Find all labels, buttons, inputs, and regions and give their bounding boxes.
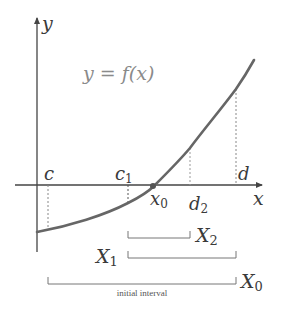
label-d2: d2 <box>189 193 208 216</box>
function-equation: y = f(x) <box>82 62 154 84</box>
label-c1: c1 <box>115 163 133 186</box>
label-X0: X0 <box>239 270 263 294</box>
label-x0: x0 <box>150 188 168 211</box>
label-X1: X1 <box>94 245 118 269</box>
y-axis-label: y <box>41 12 53 34</box>
bracket-X0 <box>48 277 236 284</box>
initial-interval-caption: initial interval <box>117 288 168 298</box>
label-c: c <box>44 163 54 184</box>
bracket-X1 <box>128 251 236 258</box>
x-axis-label: x <box>253 187 264 209</box>
bisection-diagram: y x y = f(x) c c1 x0 d2 d X2 X1 X0 initi… <box>0 0 283 314</box>
function-curve <box>37 60 254 232</box>
label-X2: X2 <box>194 224 218 248</box>
label-d: d <box>238 163 250 184</box>
bracket-X2 <box>128 231 190 238</box>
